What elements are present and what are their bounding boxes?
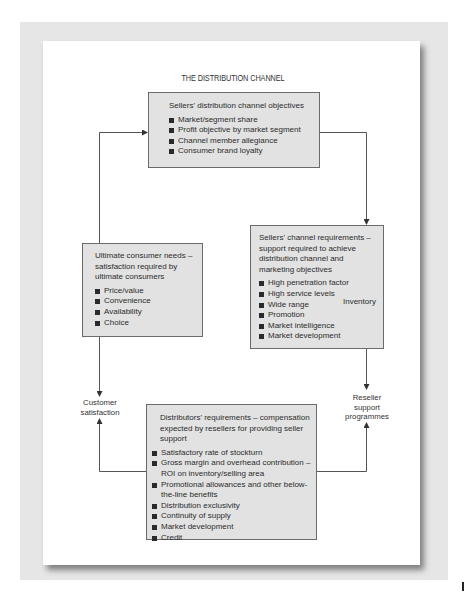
customer-satisfaction-label: Customer satisfaction xyxy=(72,398,128,417)
list-item: Channel member allegiance xyxy=(169,136,319,147)
box-sellers-objectives: Sellers' distribution channel objectives… xyxy=(148,92,320,168)
inventory-label: Inventory xyxy=(343,297,376,306)
arrow-objectives-to-requirements xyxy=(320,133,367,225)
item-list: High penetration factor High service lev… xyxy=(259,278,377,342)
list-item: Profit objective by market segment xyxy=(169,125,319,136)
list-item: Promotion xyxy=(259,310,377,321)
arrow-distributors-to-reseller xyxy=(317,423,367,472)
box-heading: Distributors' requirements – compensatio… xyxy=(152,413,312,445)
list-item: Market/segment share xyxy=(169,115,319,126)
list-item: Continuity of supply xyxy=(152,511,312,522)
box-distributors-requirements: Distributors' requirements – compensatio… xyxy=(146,404,317,540)
list-item: Credit xyxy=(152,533,312,544)
list-item: Promotional allowances and other below-t… xyxy=(152,480,312,501)
reseller-support-label: Reseller support programmes xyxy=(340,393,394,422)
box-sellers-requirements: Sellers' channel requirements – support … xyxy=(250,225,384,349)
arrow-distributors-to-satisfaction xyxy=(100,419,147,472)
edge-mark xyxy=(462,582,464,591)
list-item: Gross margin and overhead contribution –… xyxy=(152,458,312,479)
list-item: Price/value xyxy=(95,286,198,297)
item-list: Satisfactory rate of stockturn Gross mar… xyxy=(152,448,312,543)
list-item: High penetration factor xyxy=(259,278,377,289)
list-item: Availability xyxy=(95,307,198,318)
box-heading: Sellers' distribution channel objectives xyxy=(169,101,319,112)
list-item: Convenience xyxy=(95,296,198,307)
list-item: Choice xyxy=(95,318,198,329)
list-item: Market development xyxy=(152,522,312,533)
box-heading: Ultimate consumer needs – satisfaction r… xyxy=(95,251,195,283)
list-item: Consumer brand loyalty xyxy=(169,146,319,157)
list-item: Satisfactory rate of stockturn xyxy=(152,448,312,459)
arrow-consumer-to-objectives xyxy=(100,133,148,244)
item-list: Market/segment share Profit objective by… xyxy=(169,115,319,157)
list-item: Market intelligence xyxy=(259,321,377,332)
list-item: Market development xyxy=(259,331,377,342)
box-consumer-needs: Ultimate consumer needs – satisfaction r… xyxy=(82,243,203,337)
item-list: Price/value Convenience Availability Cho… xyxy=(95,286,198,328)
box-heading: Sellers' channel requirements – support … xyxy=(259,233,371,275)
list-item: Distribution exclusivity xyxy=(152,501,312,512)
